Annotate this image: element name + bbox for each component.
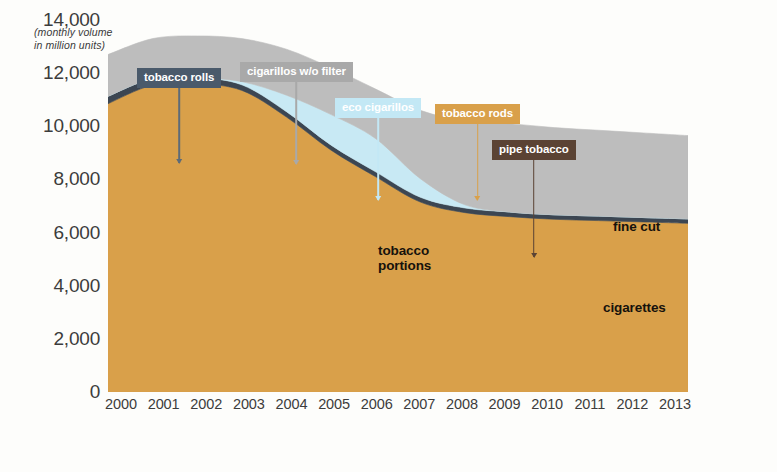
- callout-label-cigarillos-wo-filter: cigarillos w/o filter: [240, 62, 353, 82]
- x-axis-tick: 2006: [361, 396, 393, 412]
- band-label-fine-cut: fine cut: [613, 219, 660, 234]
- callout-eco-cigarillos[interactable]: eco cigarillos: [335, 97, 421, 118]
- x-axis-tick: 2009: [489, 396, 521, 412]
- x-axis-tick: 2012: [616, 396, 648, 412]
- callout-label-pipe-tobacco: pipe tobacco: [492, 140, 576, 160]
- band-label-cigarettes: cigarettes: [603, 300, 666, 315]
- x-axis-tick: 2011: [574, 396, 605, 412]
- callout-stem-eco-cigarillos: [377, 118, 379, 200]
- callout-stem-pipe-tobacco: [533, 160, 535, 257]
- callout-tobacco-rods[interactable]: tobacco rods: [435, 103, 520, 124]
- callout-stem-cigarillos-wo-filter: [296, 82, 298, 164]
- callout-pipe-tobacco[interactable]: pipe tobacco: [492, 139, 576, 160]
- callout-label-tobacco-rods: tobacco rods: [435, 104, 520, 124]
- x-axis-tick: 2007: [403, 396, 435, 412]
- x-axis-tick: 2002: [190, 396, 222, 412]
- callout-label-eco-cigarillos: eco cigarillos: [335, 98, 421, 118]
- x-axis-tick: 2001: [148, 396, 180, 412]
- x-axis-tick: 2010: [531, 396, 563, 412]
- x-axis-tick: 2003: [233, 396, 265, 412]
- callout-stem-tobacco-rolls: [178, 88, 180, 163]
- x-axis-tick: 2005: [318, 396, 350, 412]
- band-label-tobacco-portions: tobacco portions: [378, 243, 431, 273]
- callout-cigarillos-wo-filter[interactable]: cigarillos w/o filter: [240, 61, 353, 82]
- callout-stem-tobacco-rods: [477, 124, 479, 200]
- stacked-area-chart: (monthly volume in million units) 14,000…: [0, 0, 777, 472]
- x-axis-tick: 2004: [276, 396, 308, 412]
- callout-tobacco-rolls[interactable]: tobacco rolls: [137, 67, 221, 88]
- x-axis-tick: 2000: [105, 396, 137, 412]
- callout-label-tobacco-rolls: tobacco rolls: [137, 68, 221, 88]
- x-axis-tick: 2013: [659, 396, 691, 412]
- x-axis-tick: 2008: [446, 396, 478, 412]
